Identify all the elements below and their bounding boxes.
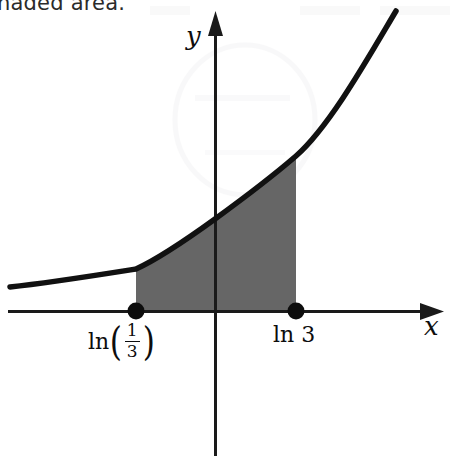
open-paren: ( <box>110 325 122 358</box>
x-axis-label: x <box>424 311 439 341</box>
point-right-bound <box>288 303 305 320</box>
fraction-one-third: 1 3 <box>123 322 142 361</box>
fraction-denominator: 3 <box>125 343 140 361</box>
exponential-area-figure <box>0 0 465 469</box>
ln-function-text: ln <box>88 329 109 354</box>
y-axis-label: y <box>186 21 201 51</box>
fraction-numerator: 1 <box>125 322 140 340</box>
arrow-up-icon <box>208 11 223 36</box>
close-paren: ) <box>142 325 154 358</box>
tick-label-right: ln 3 <box>273 322 315 347</box>
point-left-bound <box>128 303 145 320</box>
figure-page: haded area. ln ( <box>0 0 465 469</box>
tick-label-left: ln ( 1 3 ) <box>88 322 155 361</box>
